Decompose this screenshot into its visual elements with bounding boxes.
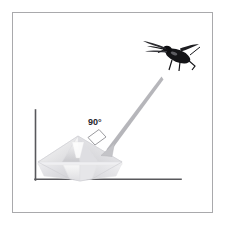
right-angle-marker <box>88 130 106 146</box>
right-angle-square <box>88 130 106 146</box>
figure-root: 90° <box>0 0 228 228</box>
fly-leg-front <box>169 60 172 70</box>
diamond-gem <box>38 136 122 181</box>
arrow-shaft <box>107 77 164 153</box>
fly-insect <box>143 41 200 71</box>
fly-leg-rear-long <box>190 47 200 55</box>
incidence-arrow <box>101 77 164 157</box>
fly-wing-lower <box>145 50 167 52</box>
angle-label-90-degrees: 90° <box>88 117 102 127</box>
arrow-head <box>101 143 115 157</box>
fly-leg-hind <box>188 60 195 70</box>
diagram-canvas <box>0 0 228 228</box>
fly-leg-mid <box>179 62 180 71</box>
